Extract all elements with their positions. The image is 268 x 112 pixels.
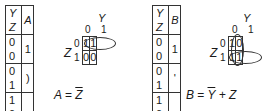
- kmap-cell: 0: [90, 51, 97, 65]
- expr-lhs: B: [186, 88, 194, 102]
- kmap-row-label: 0: [74, 38, 80, 49]
- row-output: ': [169, 64, 181, 93]
- row-output: ): [22, 64, 34, 93]
- kmap-a: 1 1 0 0: [82, 36, 97, 65]
- kmap-b: 1 0 1 1: [228, 36, 243, 65]
- expression-b: B = Y + Z: [186, 88, 236, 102]
- header-output: B: [169, 6, 181, 35]
- header-inputs: Y Z: [153, 6, 169, 35]
- expr-negated-var: Z: [75, 88, 82, 102]
- row-inputs: 0 1: [153, 64, 169, 93]
- kmap-cell: 1: [90, 37, 97, 51]
- expr-lhs: A: [54, 88, 62, 102]
- kmap-col-label: 1: [101, 24, 107, 35]
- kmap-cell: 1: [229, 37, 236, 51]
- row-output: [169, 93, 181, 112]
- kmap-row-label: 1: [74, 52, 80, 63]
- kmap-cell: 0: [236, 37, 243, 51]
- kmap-cell: 1: [236, 51, 243, 65]
- row-inputs: 0 0: [6, 35, 22, 64]
- kmap-row-label: 0: [220, 38, 226, 49]
- row-inputs: 1 0: [6, 93, 22, 112]
- header-output: A: [22, 6, 34, 35]
- row-inputs: 0 0: [153, 35, 169, 64]
- kmap-cell: 0: [83, 51, 90, 65]
- row-inputs: 1 0: [153, 93, 169, 112]
- row-output: [22, 93, 34, 112]
- truth-table-b: Y Z B 0 0 1 0 1 ' 1 0 1 1: [152, 5, 181, 111]
- row-output: 1: [22, 35, 34, 64]
- expr-eq: =: [65, 88, 72, 102]
- expr-rest: + Z: [215, 88, 236, 102]
- kmap-col-label: 0: [85, 24, 91, 35]
- row-inputs: 0 1: [6, 64, 22, 93]
- kmap-col-label: 0: [232, 24, 238, 35]
- kmap-col-label: 1: [248, 24, 254, 35]
- header-inputs: Y Z: [6, 6, 22, 35]
- expr-eq: =: [197, 88, 204, 102]
- kmap-row-var: Z: [64, 46, 71, 60]
- kmap-row-label: 1: [220, 52, 226, 63]
- kmap-col-var: Y: [98, 12, 105, 24]
- kmap-col-var: Y: [243, 12, 250, 24]
- kmap-cell: 1: [229, 51, 236, 65]
- row-output: 1: [169, 35, 181, 64]
- kmap-cell: 1: [83, 37, 90, 51]
- kmap-row-var: Z: [210, 46, 217, 60]
- expression-a: A = Z: [54, 88, 83, 102]
- truth-table-a: Y Z A 0 0 1 0 1 ) 1 0 1 1: [5, 5, 34, 111]
